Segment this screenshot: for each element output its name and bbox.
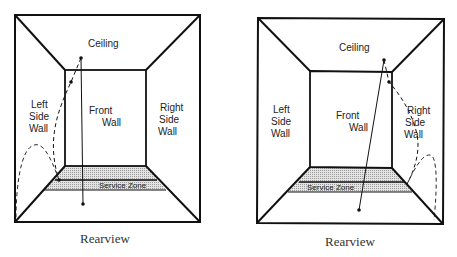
left-wall-label-3: Wall <box>29 123 48 134</box>
ceiling-label: Ceiling <box>88 38 119 49</box>
right-wall-label-1: Right <box>160 102 184 113</box>
service-zone-label: Service Zone <box>99 181 147 190</box>
right-wall-label-3: Wall <box>158 126 177 137</box>
front-wall-label-1: Front <box>89 105 113 116</box>
edge-top-left <box>15 15 65 70</box>
edge-bottom-right <box>146 166 200 222</box>
wall-dot <box>69 80 73 84</box>
caption-rearview: Rearview <box>325 234 375 249</box>
caption-rearview: Rearview <box>80 231 130 246</box>
wall-dot <box>387 80 391 84</box>
floor-dot <box>357 208 361 212</box>
edge-bottom-left <box>257 167 310 223</box>
front-wall-label-2: Wall <box>102 117 121 128</box>
court-diagrams: Ceiling Front Wall Left Side Wall Right … <box>0 0 457 257</box>
zone-dot <box>57 178 61 182</box>
ceiling-label: Ceiling <box>339 42 370 53</box>
edge-top-left <box>258 18 310 71</box>
left-wall-label-2: Side <box>271 116 291 127</box>
right-wall-label-1: Right <box>407 105 431 116</box>
left-wall-label-3: Wall <box>271 128 290 139</box>
ball-path-dashed <box>53 58 81 180</box>
front-wall-label-1: Front <box>336 110 360 121</box>
right-wall-label-2: Side <box>405 117 425 128</box>
edge-bottom-right <box>392 168 443 224</box>
court-diagram-right: Ceiling Front Wall Left Side Wall Right … <box>257 18 444 249</box>
front-wall-label-2: Wall <box>349 122 368 133</box>
right-wall-label-2: Side <box>159 114 179 125</box>
court-diagram-left: Ceiling Front Wall Left Side Wall Right … <box>15 15 200 246</box>
floor-dot <box>81 202 85 206</box>
right-wall-label-3: Wall <box>404 129 423 140</box>
left-wall-label-2: Side <box>29 111 49 122</box>
service-zone-label: Service Zone <box>307 183 355 192</box>
left-wall-label-1: Left <box>273 104 290 115</box>
left-wall-label-1: Left <box>31 99 48 110</box>
edge-top-right <box>146 15 200 70</box>
edge-top-right <box>392 19 444 72</box>
